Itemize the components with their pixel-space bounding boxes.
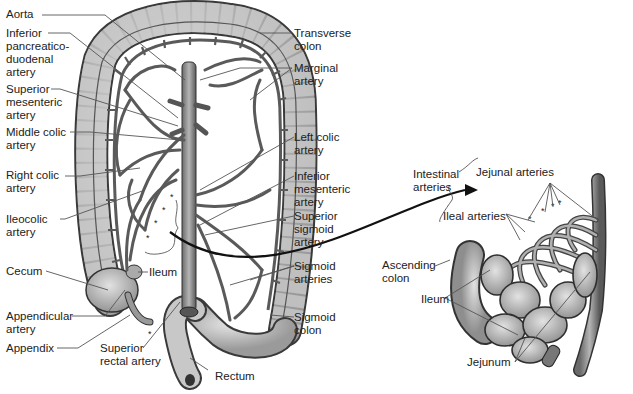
label-right-colic-artery: Right colic artery	[6, 169, 59, 195]
intestinal-arterial-supply-diagram: ** ** *	[0, 0, 633, 394]
label-sigmoid-arteries: Sigmoid arteries	[294, 260, 336, 286]
label-ileum: Ileum	[149, 266, 177, 279]
label-jejunal-arteries: Jejunal arteries	[476, 166, 554, 179]
label-ileocolic-artery: Ileocolic artery	[6, 213, 48, 239]
label-marginal-artery: Marginal artery	[294, 62, 338, 88]
arrow-head-icon	[465, 184, 478, 196]
label-superior-sigmoid-artery: Superior sigmoid artery	[294, 210, 337, 249]
svg-text:*: *	[541, 206, 545, 216]
label-superior-mesenteric-artery: Superior mesenteric artery	[6, 83, 62, 122]
label-inferior-mesenteric-artery: Inferior mesenteric artery	[294, 170, 350, 209]
label-ileum-detail: Ileum	[421, 293, 449, 306]
label-cecum: Cecum	[6, 265, 42, 278]
svg-text:*: *	[154, 218, 158, 228]
label-appendicular-artery: Appendicular artery	[6, 310, 73, 336]
svg-text:*: *	[170, 192, 174, 202]
label-superior-rectal-artery: Superior rectal artery	[100, 342, 161, 368]
label-inferior-pancreaticoduodenal-artery: Inferior pancreatico- duodenal artery	[6, 27, 69, 79]
label-middle-colic-artery: Middle colic artery	[6, 126, 66, 152]
svg-text:*: *	[162, 205, 166, 215]
label-ascending-colon: Ascending colon	[382, 259, 436, 285]
label-intestinal-arteries: Intestinal arteries	[413, 168, 459, 194]
label-transverse-colon: Transverse colon	[294, 27, 351, 53]
label-rectum: Rectum	[215, 370, 255, 383]
svg-text:*: *	[146, 233, 150, 243]
label-appendix: Appendix	[6, 342, 54, 355]
label-ileal-arteries: Ileal arteries	[443, 210, 506, 223]
label-sigmoid-colon: Sigmoid colon	[294, 311, 336, 337]
label-aorta: Aorta	[6, 8, 34, 21]
label-left-colic-artery: Left colic artery	[294, 131, 339, 157]
label-jejunum: Jejunum	[467, 356, 510, 369]
